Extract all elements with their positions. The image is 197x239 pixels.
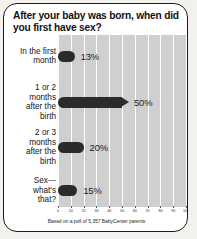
category-label-line: Sex—	[4, 176, 56, 186]
axis-tick-mark	[84, 206, 85, 208]
category-label-line: birth	[4, 112, 56, 122]
category-label-line: months	[4, 138, 56, 148]
bar-rows: In the firstmonth13%1 or 2monthsafter th…	[4, 35, 186, 207]
chart-card: After your baby was born, when did you f…	[3, 3, 188, 232]
category-label-line: that?	[4, 195, 56, 205]
category-label: 1 or 2monthsafter thebirth	[4, 83, 56, 121]
category-label-line: what's	[4, 186, 56, 196]
bar	[58, 51, 75, 62]
axis-tick-label: 100	[183, 209, 188, 213]
category-label-line: after the	[4, 102, 56, 112]
bar	[58, 142, 84, 153]
bar-value-label: 20%	[90, 142, 108, 153]
bar-value-label: 15%	[83, 185, 101, 196]
axis-tick-label: 30	[94, 209, 98, 213]
axis-tick-mark	[160, 206, 161, 208]
bar-value-label: 13%	[81, 51, 99, 62]
axis-tick-mark	[109, 206, 110, 208]
category-label-line: month	[4, 56, 56, 66]
category-label: Sex—what'sthat?	[4, 176, 56, 205]
category-label: In the firstmonth	[4, 47, 56, 66]
bar-value-label: 50%	[134, 97, 152, 108]
axis-tick-mark	[96, 206, 97, 208]
category-label-line: birth	[4, 157, 56, 167]
axis-tick-label: 70	[146, 209, 150, 213]
axis-tick-label: 90	[171, 209, 175, 213]
axis-tick-label: 10	[69, 209, 73, 213]
axis-tick-label: 60	[133, 209, 137, 213]
axis-tick-label: 50	[120, 209, 124, 213]
axis-tick-label: 40	[107, 209, 111, 213]
axis-tick-label: 0	[57, 209, 59, 213]
axis-tick-mark	[71, 206, 72, 208]
axis-tick-mark	[122, 206, 123, 208]
category-label: 2 or 3monthsafter thebirth	[4, 128, 56, 166]
axis-tick-mark	[58, 206, 59, 208]
x-axis: 0102030405060708090100	[58, 209, 186, 217]
axis-tick-label: 80	[158, 209, 162, 213]
axis-tick-mark	[148, 206, 149, 208]
category-label-line: months	[4, 93, 56, 103]
category-label-line: In the first	[4, 47, 56, 57]
category-label-line: 1 or 2	[4, 83, 56, 93]
bar	[58, 185, 77, 196]
gridline	[186, 35, 187, 207]
chart-title: After your baby was born, when did you f…	[13, 10, 179, 35]
axis-tick-mark	[186, 206, 187, 208]
category-label-line: after the	[4, 147, 56, 157]
chart-footnote: Based on a poll of 5,357 BabyCenter pare…	[4, 218, 188, 224]
category-label-line: 2 or 3	[4, 128, 56, 138]
bar	[58, 97, 122, 108]
axis-tick-label: 20	[82, 209, 86, 213]
axis-tick-mark	[135, 206, 136, 208]
axis-tick-mark	[173, 206, 174, 208]
